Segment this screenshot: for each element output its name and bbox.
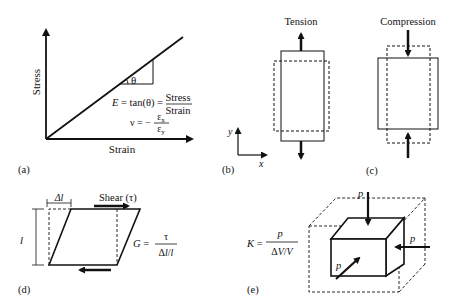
pressure-label-top: p — [357, 188, 363, 199]
tension-title: Tension — [284, 16, 318, 27]
youngs-modulus-numerator: Stress — [165, 92, 190, 103]
shear-modulus-denominator: Δl/l — [159, 247, 174, 258]
bulk-modulus-numerator: p — [276, 228, 282, 239]
original-specimen — [281, 51, 324, 141]
pressure-label-front: p — [335, 260, 341, 271]
panel-a-stress-strain: θ Stress Strain E = tan(θ) = Stress Stra… — [18, 30, 192, 176]
panel-e-bulk: K = p ΔV/V p p p (e) — [246, 188, 430, 296]
bulk-modulus-denominator: ΔV/V — [271, 246, 294, 257]
angle-theta: θ — [131, 74, 136, 86]
stress-axis-label: Stress — [30, 69, 42, 95]
delta-l-label: Δl — [54, 192, 64, 203]
sheared-shape — [49, 209, 140, 265]
deformed-specimen — [274, 61, 329, 131]
youngs-modulus-lhs: E = tan(θ) = — [111, 97, 163, 109]
coord-x-label: x — [258, 158, 264, 169]
poisson-ratio-numerator: εx — [157, 112, 165, 124]
pressure-label-right: p — [409, 233, 415, 244]
shear-label: Shear (τ) — [99, 192, 137, 204]
mechanical-properties-diagram: θ Stress Strain E = tan(θ) = Stress Stra… — [0, 0, 455, 308]
panel-label-e: (e) — [247, 284, 259, 296]
panel-d-shear: Δl l Shear (τ) G = τ Δl/l (d) — [18, 192, 177, 296]
shear-modulus-numerator: τ — [164, 231, 168, 242]
poisson-ratio-denominator: εy — [157, 124, 165, 136]
poisson-ratio-lhs: ν = − — [130, 117, 151, 128]
coord-y-label: y — [227, 126, 233, 137]
bulk-modulus-lhs: K = — [246, 238, 263, 249]
youngs-modulus-denominator: Strain — [165, 105, 191, 116]
shear-modulus-lhs: G = — [133, 238, 149, 249]
compressed-cube — [331, 218, 404, 276]
panel-label-c: (c) — [366, 165, 378, 177]
deformed-specimen — [387, 46, 430, 143]
length-label: l — [20, 234, 23, 246]
compression-title: Compression — [380, 16, 436, 27]
panel-b-tension: Tension y x (b) — [222, 16, 329, 176]
panel-label-a: (a) — [18, 164, 30, 176]
strain-axis-label: Strain — [109, 143, 136, 155]
angle-arc — [127, 80, 129, 85]
panel-label-d: (d) — [18, 284, 31, 296]
panel-c-compression: Compression (c) — [366, 16, 438, 177]
panel-label-b: (b) — [222, 164, 235, 176]
